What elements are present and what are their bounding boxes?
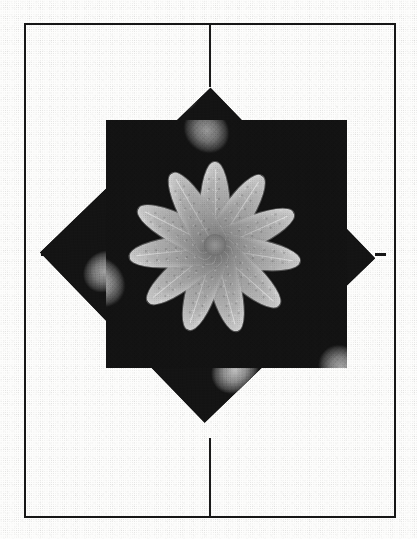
upright-square-panel — [106, 120, 347, 368]
electron-micrograph-collage — [0, 0, 417, 539]
scanned-page — [0, 0, 417, 539]
panel-speckle-texture — [106, 120, 347, 368]
